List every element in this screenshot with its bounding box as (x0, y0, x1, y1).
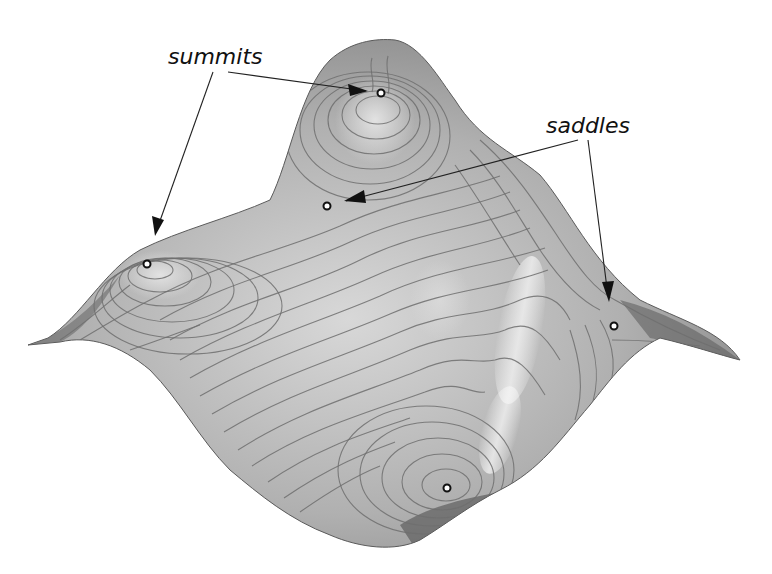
terrain-surface (28, 40, 740, 548)
summit-marker-top (378, 90, 385, 97)
terrain-figure: summits saddles (0, 0, 772, 574)
summit-marker-left (144, 261, 151, 268)
arrowhead-icon (152, 216, 164, 236)
summit-marker-bottom (444, 485, 451, 492)
saddle-marker-right (611, 323, 618, 330)
saddle-marker-middle (324, 203, 331, 210)
saddles-label: saddles (546, 113, 630, 138)
summits-arrow-left (156, 72, 213, 232)
summits-label: summits (168, 44, 262, 69)
